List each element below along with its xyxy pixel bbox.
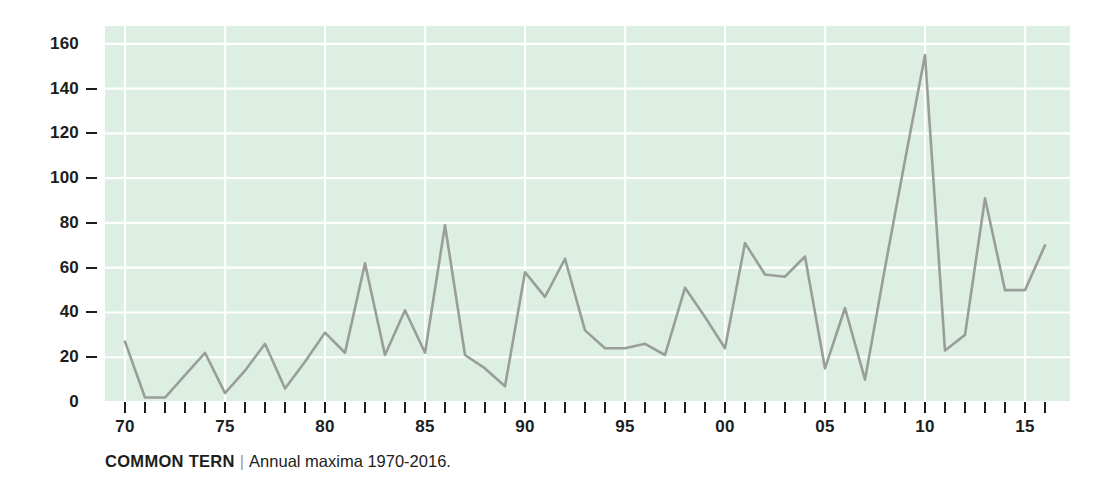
x-axis-tick-mark-1988 xyxy=(484,402,486,413)
x-axis-tick-label-1980: 80 xyxy=(315,417,334,437)
y-axis-tick-dash xyxy=(86,311,97,313)
x-axis-tick-label-1975: 75 xyxy=(215,417,234,437)
data-series-line xyxy=(105,26,1070,402)
y-axis: 020406080100120140160 xyxy=(0,0,105,420)
y-axis-tick-label: 40 xyxy=(60,303,79,321)
x-axis-tick-mark-1980 xyxy=(324,402,326,413)
y-axis-tick-dash xyxy=(86,222,97,224)
x-axis-tick-mark-2004 xyxy=(804,402,806,413)
x-axis-tick-mark-1999 xyxy=(704,402,706,413)
y-axis-tick-dash xyxy=(86,177,97,179)
y-axis-tick-dash xyxy=(86,356,97,358)
x-axis-tick-label-1990: 90 xyxy=(515,417,534,437)
x-axis-tick-mark-2009 xyxy=(904,402,906,413)
x-axis-tick-mark-1991 xyxy=(544,402,546,413)
caption-species: COMMON TERN xyxy=(105,452,235,470)
x-axis-tick-mark-1977 xyxy=(264,402,266,413)
y-axis-tick-label: 140 xyxy=(50,80,79,98)
x-axis-tick-mark-1989 xyxy=(504,402,506,413)
x-axis: 70758085909500051015 xyxy=(105,402,1070,448)
y-axis-tick-dash xyxy=(86,88,97,90)
x-axis-tick-mark-2010 xyxy=(924,402,926,413)
x-axis-tick-mark-2014 xyxy=(1004,402,1006,413)
caption-separator: | xyxy=(235,452,249,470)
x-axis-tick-mark-1975 xyxy=(224,402,226,413)
x-axis-tick-mark-2012 xyxy=(964,402,966,413)
x-axis-tick-mark-1998 xyxy=(684,402,686,413)
x-axis-tick-mark-1979 xyxy=(304,402,306,413)
y-axis-tick-label: 80 xyxy=(60,214,79,232)
x-axis-tick-mark-1985 xyxy=(424,402,426,413)
x-axis-tick-mark-1987 xyxy=(464,402,466,413)
x-axis-tick-mark-2001 xyxy=(744,402,746,413)
y-axis-tick-label: 100 xyxy=(50,169,79,187)
x-axis-tick-mark-2005 xyxy=(824,402,826,413)
x-axis-tick-label-2015: 15 xyxy=(1015,417,1034,437)
x-axis-tick-mark-2015 xyxy=(1024,402,1026,413)
x-axis-tick-mark-1971 xyxy=(144,402,146,413)
x-axis-tick-mark-1996 xyxy=(644,402,646,413)
chart-figure: 020406080100120140160 707580859095000510… xyxy=(0,0,1116,491)
x-axis-tick-label-1985: 85 xyxy=(415,417,434,437)
x-axis-tick-mark-1982 xyxy=(364,402,366,413)
x-axis-tick-mark-1992 xyxy=(564,402,566,413)
x-axis-tick-mark-1976 xyxy=(244,402,246,413)
x-axis-tick-mark-1984 xyxy=(404,402,406,413)
x-axis-tick-mark-1973 xyxy=(184,402,186,413)
y-axis-tick-label: 0 xyxy=(69,393,79,411)
x-axis-tick-mark-2016 xyxy=(1044,402,1046,413)
x-axis-tick-mark-1993 xyxy=(584,402,586,413)
plot-area xyxy=(105,26,1070,402)
x-axis-tick-mark-2011 xyxy=(944,402,946,413)
x-axis-tick-mark-1970 xyxy=(124,402,126,413)
x-axis-tick-mark-2013 xyxy=(984,402,986,413)
x-axis-tick-mark-1995 xyxy=(624,402,626,413)
y-axis-tick-dash xyxy=(86,267,97,269)
x-axis-tick-label-2010: 10 xyxy=(915,417,934,437)
x-axis-tick-mark-1972 xyxy=(164,402,166,413)
x-axis-tick-label-2005: 05 xyxy=(815,417,834,437)
y-axis-tick-label: 160 xyxy=(50,35,79,53)
x-axis-tick-mark-1981 xyxy=(344,402,346,413)
x-axis-tick-label-1995: 95 xyxy=(615,417,634,437)
y-axis-tick-label: 60 xyxy=(60,259,79,277)
caption: COMMON TERN|Annual maxima 1970-2016. xyxy=(105,448,451,474)
x-axis-tick-mark-1994 xyxy=(604,402,606,413)
x-axis-tick-mark-2003 xyxy=(784,402,786,413)
caption-description: Annual maxima 1970-2016. xyxy=(249,452,451,470)
x-axis-tick-mark-2007 xyxy=(864,402,866,413)
x-axis-tick-mark-2002 xyxy=(764,402,766,413)
x-axis-tick-mark-1978 xyxy=(284,402,286,413)
x-axis-tick-label-1970: 70 xyxy=(115,417,134,437)
x-axis-tick-mark-2008 xyxy=(884,402,886,413)
x-axis-tick-mark-1997 xyxy=(664,402,666,413)
x-axis-tick-label-2000: 00 xyxy=(715,417,734,437)
x-axis-tick-mark-1974 xyxy=(204,402,206,413)
x-axis-tick-mark-2006 xyxy=(844,402,846,413)
y-axis-tick-dash xyxy=(86,132,97,134)
x-axis-tick-mark-1986 xyxy=(444,402,446,413)
x-axis-tick-mark-1990 xyxy=(524,402,526,413)
x-axis-tick-mark-2000 xyxy=(724,402,726,413)
y-axis-tick-label: 20 xyxy=(60,348,79,366)
y-axis-tick-label: 120 xyxy=(50,124,79,142)
x-axis-tick-mark-1983 xyxy=(384,402,386,413)
